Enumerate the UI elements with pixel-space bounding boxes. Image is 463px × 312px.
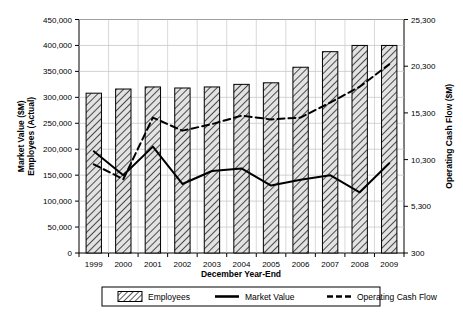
y-tick-label-right: 5,300 xyxy=(411,202,432,211)
x-tick-label-2009: 2009 xyxy=(380,260,398,269)
combo-chart: 050,000100,000150,000200,000250,000300,0… xyxy=(0,0,463,312)
bar-employees-1999 xyxy=(86,93,101,253)
legend-label-employees: Employees xyxy=(148,292,190,302)
y-tick-label-left: 150,000 xyxy=(43,171,72,180)
y-tick-label-right: 15,300 xyxy=(411,109,436,118)
bar-employees-2002 xyxy=(175,88,190,253)
y-tick-label-left: 400,000 xyxy=(43,41,72,50)
x-tick-label-1999: 1999 xyxy=(85,260,103,269)
x-tick-label-2002: 2002 xyxy=(174,260,192,269)
bar-employees-2005 xyxy=(263,83,278,253)
bar-employees-2006 xyxy=(293,67,308,253)
y-axis-left-title-line2: Employees (Actual) xyxy=(26,97,36,176)
y-tick-label-left: 200,000 xyxy=(43,145,72,154)
y-tick-label-left: 350,000 xyxy=(43,67,72,76)
y-tick-label-right: 10,300 xyxy=(411,156,436,165)
chart-container: 050,000100,000150,000200,000250,000300,0… xyxy=(0,0,463,312)
legend-swatch-employees xyxy=(118,292,142,302)
y-tick-label-right: 300 xyxy=(411,249,425,258)
bar-employees-2009 xyxy=(382,45,397,253)
y-tick-label-left: 100,000 xyxy=(43,197,72,206)
x-axis-title: December Year-End xyxy=(201,269,281,279)
y-tick-label-left: 250,000 xyxy=(43,119,72,128)
bar-employees-2007 xyxy=(322,52,337,253)
legend-label-operating-cash-flow: Operating Cash Flow xyxy=(357,292,438,302)
bar-employees-2008 xyxy=(352,45,367,253)
y-axis-right-title: Operating Cash Flow ($M) xyxy=(444,84,454,189)
x-tick-label-2007: 2007 xyxy=(321,260,339,269)
legend-label-market-value: Market Value xyxy=(245,292,295,302)
x-tick-label-2008: 2008 xyxy=(351,260,369,269)
x-tick-label-2006: 2006 xyxy=(292,260,310,269)
y-tick-label-right: 20,300 xyxy=(411,62,436,71)
y-tick-label-right: 25,300 xyxy=(411,16,436,25)
y-tick-label-left: 300,000 xyxy=(43,93,72,102)
bar-employees-2001 xyxy=(145,87,160,253)
x-tick-label-2005: 2005 xyxy=(262,260,280,269)
x-tick-label-2001: 2001 xyxy=(144,260,162,269)
y-tick-label-left: 50,000 xyxy=(48,223,73,232)
y-axis-left-title-line1: Market Value ($M) xyxy=(16,100,26,172)
y-tick-label-left: 450,000 xyxy=(43,16,72,25)
y-tick-label-left: 0 xyxy=(68,249,73,258)
x-tick-label-2000: 2000 xyxy=(114,260,132,269)
x-tick-label-2004: 2004 xyxy=(233,260,251,269)
x-tick-label-2003: 2003 xyxy=(203,260,221,269)
